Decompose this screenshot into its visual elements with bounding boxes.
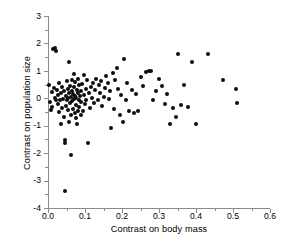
data-point	[141, 84, 145, 88]
data-point	[60, 85, 64, 89]
data-point	[113, 78, 117, 82]
data-point	[134, 92, 138, 96]
data-point	[89, 85, 93, 89]
data-point	[92, 101, 96, 105]
data-point	[194, 122, 198, 126]
data-point	[50, 90, 54, 94]
data-point	[54, 49, 58, 53]
data-point	[66, 108, 70, 112]
data-point	[111, 71, 115, 75]
data-point	[112, 107, 116, 111]
data-point	[76, 77, 80, 81]
data-point	[165, 92, 169, 96]
data-point	[69, 153, 73, 157]
data-point	[115, 66, 119, 70]
data-point	[154, 89, 158, 93]
data-point	[90, 96, 94, 100]
data-point	[103, 86, 107, 90]
data-point	[104, 74, 108, 78]
data-point	[77, 105, 81, 109]
data-point	[87, 91, 91, 95]
data-point	[190, 60, 194, 64]
data-point	[163, 102, 167, 106]
data-point	[157, 77, 161, 81]
data-point	[235, 101, 239, 105]
data-point	[69, 113, 73, 117]
data-point	[56, 102, 60, 106]
data-point	[124, 98, 128, 102]
data-point	[102, 95, 106, 99]
data-point	[91, 81, 95, 85]
data-point	[63, 189, 67, 193]
data-point	[84, 98, 88, 102]
data-point	[125, 81, 129, 85]
data-point	[65, 79, 69, 83]
data-points-layer	[0, 0, 282, 243]
data-point	[121, 120, 125, 124]
data-point	[234, 87, 238, 91]
data-point	[88, 106, 92, 110]
y-axis-title: Contrast on population size	[22, 23, 32, 203]
data-point	[122, 57, 126, 61]
data-point	[108, 89, 112, 93]
data-point	[119, 93, 123, 97]
data-point	[107, 97, 111, 101]
data-point	[62, 115, 66, 119]
data-point	[96, 98, 100, 102]
data-point	[55, 88, 59, 92]
data-point	[221, 78, 225, 82]
data-point	[97, 83, 101, 87]
data-point	[182, 83, 186, 87]
data-point	[79, 113, 83, 117]
data-point	[83, 102, 87, 106]
data-point	[118, 113, 122, 117]
data-point	[81, 109, 85, 113]
data-point	[136, 109, 140, 113]
data-point	[168, 122, 172, 126]
data-point	[72, 72, 76, 76]
data-point	[74, 116, 78, 120]
data-point	[67, 120, 71, 124]
data-point	[86, 141, 90, 145]
data-point	[76, 109, 80, 113]
data-point	[151, 98, 155, 102]
data-point	[57, 110, 61, 114]
data-point	[75, 122, 79, 126]
data-point	[179, 103, 183, 107]
data-point	[50, 105, 54, 109]
data-point	[48, 100, 52, 104]
data-point	[127, 109, 131, 113]
data-point	[80, 82, 84, 86]
data-point	[116, 87, 120, 91]
data-point	[82, 73, 86, 77]
data-point	[82, 93, 86, 97]
data-point	[139, 75, 143, 79]
data-point	[160, 84, 164, 88]
data-point	[98, 91, 102, 95]
data-point	[94, 77, 98, 81]
data-point	[67, 60, 71, 64]
data-point	[63, 141, 67, 145]
data-point	[93, 88, 97, 92]
scatter-plot: 3210-1-2-3-4 0.00.10.20.30.40.50.6 Contr…	[0, 0, 282, 243]
data-point	[99, 79, 103, 83]
data-point	[106, 81, 110, 85]
data-point	[186, 105, 190, 109]
data-point	[47, 83, 51, 87]
data-point	[130, 88, 134, 92]
data-point	[109, 126, 113, 130]
data-point	[71, 107, 75, 111]
data-point	[85, 78, 89, 82]
data-point	[59, 122, 63, 126]
data-point	[206, 52, 210, 56]
x-axis-title: Contrast on body mass	[48, 224, 270, 234]
data-point	[174, 115, 178, 119]
data-point	[84, 87, 88, 91]
data-point	[149, 69, 153, 73]
data-point	[176, 52, 180, 56]
data-point	[100, 104, 104, 108]
data-point	[171, 106, 175, 110]
data-point	[132, 111, 136, 115]
